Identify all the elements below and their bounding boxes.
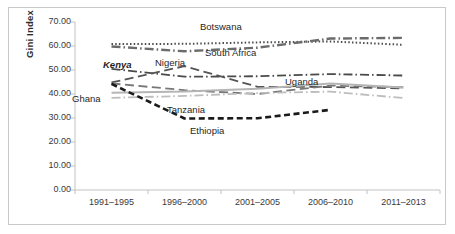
gini-index-line-chart: Gini Index 70.0060.0050.0040.0030.0020.0…	[0, 0, 455, 234]
series-label-kenya: Kenya	[103, 59, 132, 70]
series-label-ethiopia: Ethiopia	[190, 125, 224, 136]
series-label-uganda: Uganda	[285, 76, 318, 87]
series-line-south-africa	[112, 38, 404, 51]
series-label-botswana: Botswana	[200, 21, 242, 32]
series-line-ethiopia	[112, 84, 331, 119]
series-label-tanzania: Tanzania	[167, 104, 205, 115]
series-label-ghana: Ghana	[72, 93, 101, 104]
series-line-botswana	[112, 41, 404, 44]
chart-plot-svg	[0, 0, 455, 234]
series-label-south-africa: South Africa	[205, 47, 256, 58]
series-label-nigeria: Nigeria	[155, 57, 185, 68]
